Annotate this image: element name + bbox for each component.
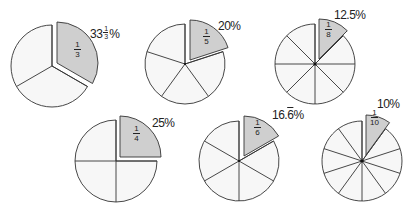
center-dot (184, 63, 186, 65)
fraction-denominator: 3 (75, 50, 79, 59)
pie-thirds (11, 22, 98, 107)
fraction-numerator: 1 (75, 40, 79, 49)
percent-label: 16.6% (272, 109, 304, 121)
pie-fifths (145, 20, 228, 104)
percent-label: 3313% (90, 27, 120, 42)
fraction-numerator: 1 (372, 108, 376, 117)
fraction-denominator: 5 (204, 37, 208, 46)
center-dot (313, 62, 316, 65)
percent-label: 10% (377, 98, 400, 110)
fraction-denominator: 10 (370, 118, 379, 127)
fraction-denominator: 4 (134, 134, 138, 143)
slice-fraction: 13 (74, 40, 81, 59)
percent-label: 20% (218, 20, 241, 32)
percent-label: 12.5% (334, 9, 366, 21)
percent-label: 25% (152, 117, 175, 129)
percent-whole: 33 (90, 27, 102, 41)
slice-fraction: 16 (254, 118, 261, 137)
pie-quarters (75, 116, 161, 202)
fraction-numerator: 1 (204, 27, 208, 36)
fraction-denominator: 6 (255, 128, 259, 137)
fraction-numerator: 1 (326, 20, 330, 29)
center-dot (360, 159, 363, 162)
percent-mixed-fraction: 13 (103, 25, 108, 40)
center-dot (238, 160, 240, 162)
fraction-denominator: 8 (326, 30, 330, 39)
pie-tenths (322, 115, 402, 201)
slice-fraction: 14 (133, 124, 140, 143)
slice-fraction: 18 (325, 20, 332, 39)
fraction-numerator: 1 (255, 118, 259, 127)
slice-fraction: 15 (203, 27, 210, 46)
fraction-numerator: 1 (134, 124, 138, 133)
pie-sixths (199, 116, 279, 201)
pie-eighths (275, 19, 355, 104)
